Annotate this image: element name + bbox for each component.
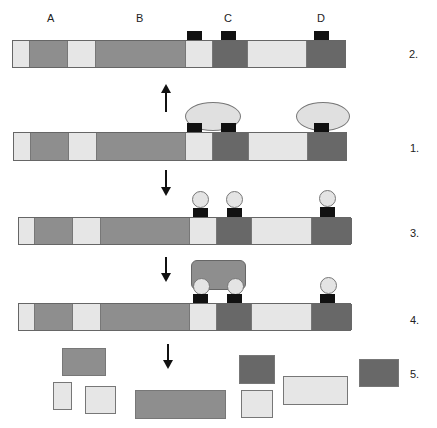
segment-d — [307, 41, 346, 67]
segment-a — [31, 133, 69, 160]
segment-a — [30, 41, 68, 67]
segment-light — [73, 304, 101, 330]
segment-light — [19, 304, 35, 330]
step-label: 1. — [410, 142, 419, 154]
fragment-light — [283, 376, 348, 405]
segment-light — [73, 218, 101, 244]
binding-site — [320, 294, 335, 303]
binding-site — [314, 123, 329, 132]
step-label: 5. — [410, 368, 419, 380]
segment-light — [186, 133, 213, 160]
fragment-c — [239, 355, 275, 384]
segment-light — [190, 218, 217, 244]
region-label-d: D — [317, 12, 325, 24]
binding-site — [193, 294, 208, 303]
arrow-down-icon — [165, 170, 167, 188]
segment-c — [213, 41, 248, 67]
binding-site — [221, 123, 236, 132]
binding-site — [187, 123, 202, 132]
bead — [192, 191, 209, 208]
arrow-down-head — [161, 187, 171, 196]
binding-site — [227, 294, 242, 303]
segment-c — [217, 304, 252, 330]
bead — [319, 190, 336, 207]
segment-d — [312, 218, 352, 244]
binding-site — [227, 208, 242, 217]
fragment-light — [53, 382, 72, 410]
segment-light — [249, 133, 308, 160]
arrow-down-icon — [165, 257, 167, 274]
segment-light — [19, 218, 35, 244]
segment-d — [312, 304, 352, 330]
step-label: 3. — [410, 227, 419, 239]
fragment-d — [359, 359, 399, 387]
arrow-down-icon — [167, 344, 169, 361]
segment-light — [252, 218, 312, 244]
bead — [227, 278, 244, 295]
binding-site — [187, 31, 202, 40]
fragment-a — [62, 348, 106, 376]
segment-light — [186, 41, 213, 67]
arrow-down-head — [161, 273, 171, 282]
segment-light — [248, 41, 307, 67]
segment-b — [97, 133, 186, 160]
binding-site — [314, 31, 329, 40]
segment-light — [69, 133, 97, 160]
binding-site — [221, 31, 236, 40]
segment-a — [35, 304, 73, 330]
region-label-b: B — [136, 12, 143, 24]
segment-light — [13, 41, 30, 67]
segment-light — [14, 133, 31, 160]
segment-b — [101, 218, 190, 244]
step-label: 4. — [410, 314, 419, 326]
dna-bar-step-3 — [18, 217, 351, 245]
segment-light — [190, 304, 217, 330]
fragment-b — [135, 390, 226, 419]
binding-site — [193, 208, 208, 217]
region-label-a: A — [47, 12, 54, 24]
segment-c — [217, 218, 252, 244]
dna-bar-step-2 — [12, 40, 346, 68]
segment-c — [213, 133, 249, 160]
segment-light — [252, 304, 312, 330]
bead — [193, 278, 210, 295]
arrow-up-icon — [165, 90, 167, 112]
segment-b — [101, 304, 190, 330]
fragment-light — [241, 390, 273, 418]
bead — [320, 277, 337, 294]
segment-a — [35, 218, 73, 244]
fragment-light — [85, 386, 116, 414]
bead — [226, 191, 243, 208]
step-label: 2. — [409, 48, 418, 60]
arrow-up-head — [161, 84, 171, 93]
arrow-down-head — [163, 360, 173, 369]
segment-b — [96, 41, 186, 67]
segment-d — [308, 133, 347, 160]
segment-light — [68, 41, 96, 67]
dna-bar-step-1 — [13, 132, 347, 161]
dna-bar-step-4 — [18, 303, 351, 331]
region-label-c: C — [224, 12, 232, 24]
binding-site — [320, 207, 335, 217]
